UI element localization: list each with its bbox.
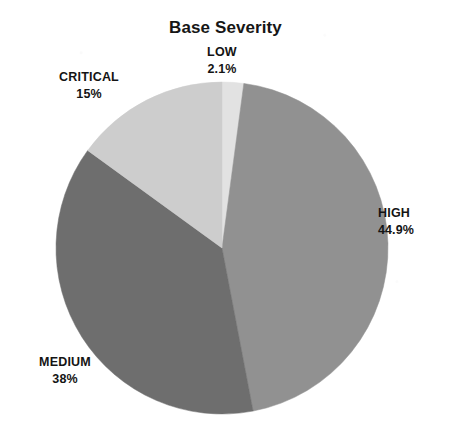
slice-label-medium-name: MEDIUM (6, 354, 124, 371)
pie-chart: Base Severity LOW 2.1% HIGH 44.9% MEDIUM… (0, 0, 451, 440)
slice-label-low: LOW 2.1% (177, 44, 267, 77)
slice-label-medium-value: 38% (6, 371, 124, 388)
slice-label-critical-value: 15% (28, 86, 150, 103)
pie-slice-high (222, 83, 388, 411)
slice-label-high-name: HIGH (378, 205, 450, 222)
slice-label-high: HIGH 44.9% (378, 205, 450, 238)
slice-label-low-value: 2.1% (177, 61, 267, 78)
slice-label-critical: CRITICAL 15% (28, 69, 150, 102)
slice-label-medium: MEDIUM 38% (6, 354, 124, 387)
slice-label-high-value: 44.9% (378, 222, 450, 239)
slice-label-low-name: LOW (177, 44, 267, 61)
slice-label-critical-name: CRITICAL (28, 69, 150, 86)
chart-title: Base Severity (0, 18, 451, 38)
